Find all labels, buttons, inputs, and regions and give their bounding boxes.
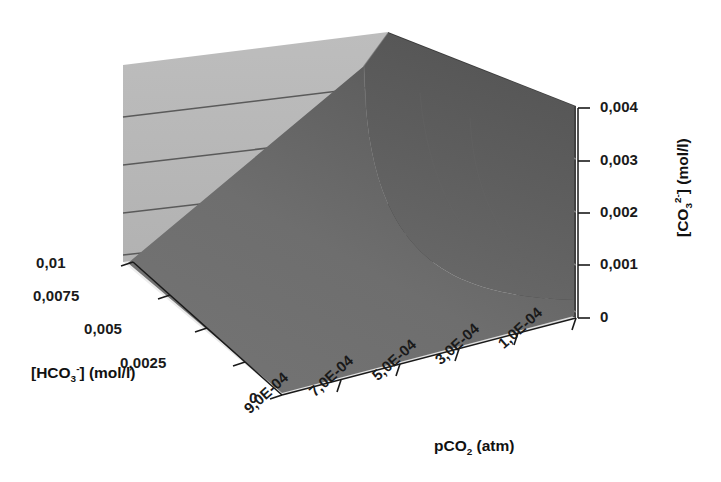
z-axis-title-sub: 3 [683,203,694,209]
y-tick-label-0: 0,01 [36,254,66,271]
surface-plot-canvas [0,0,721,482]
z-axis-title-open: [CO [674,209,691,237]
y-tick-label-1: 0,0075 [33,287,79,304]
x-axis-title-tail: (atm) [472,437,514,454]
z-tick-label-0: 0,004 [600,98,638,115]
y-axis-title-open: [HCO [31,364,71,381]
x-axis-title-open: pCO [434,437,467,454]
z-axis-title: [CO32-] (mol/l) [672,113,693,263]
surface-chart-3d: 0,01 0,0075 0,005 0,0025 0 [HCO3-] (mol/… [0,0,721,482]
z-axis-title-tail: ] (mol/l) [674,138,691,194]
z-tick-label-4: 0 [600,308,608,325]
y-axis-title-tail: ] (mol/l) [79,364,135,381]
z-axis-ticks [578,108,590,318]
z-tick-label-2: 0,002 [600,203,638,220]
y-axis-title: [HCO3-] (mol/l) [31,363,135,384]
z-axis-title-sup: 2- [672,194,683,203]
z-tick-label-3: 0,001 [600,255,638,272]
y-tick-label-2: 0,005 [84,320,122,337]
z-tick-label-1: 0,003 [600,151,638,168]
y-axis-title-sub: 3 [71,373,77,384]
x-axis-title: pCO2 (atm) [434,437,514,457]
